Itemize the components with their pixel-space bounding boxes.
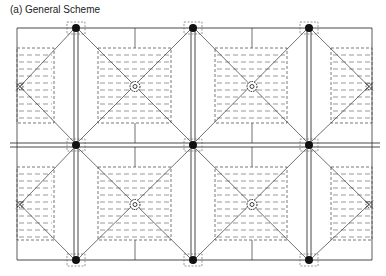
slope-diagonal	[20, 205, 73, 259]
column-node-icon	[72, 24, 80, 32]
drainage-area-edge	[331, 167, 372, 240]
slope-diagonal	[312, 149, 369, 205]
slope-diagonal	[20, 87, 73, 142]
roof-drain-icon	[247, 82, 257, 92]
slope-diagonal	[20, 30, 73, 87]
column-node-icon	[189, 24, 197, 32]
drainage-area-edge	[331, 48, 372, 123]
roof-drain-icon	[130, 200, 140, 210]
column-node-icon	[189, 256, 197, 264]
slope-diagonal	[312, 205, 369, 259]
column-node-icon	[305, 141, 313, 149]
column-node-icon	[72, 141, 80, 149]
drainage-area-edge	[17, 48, 54, 123]
slope-diagonal	[312, 87, 369, 142]
column-node-icon	[72, 256, 80, 264]
drainage-area-edge	[17, 167, 54, 240]
column-node-icon	[189, 141, 197, 149]
column-node-icon	[305, 256, 313, 264]
slope-diagonal	[20, 149, 73, 205]
drainage-scheme-diagram	[0, 0, 386, 276]
roof-drain-icon	[130, 82, 140, 92]
roof-drain-icon	[247, 200, 257, 210]
slope-diagonal	[312, 30, 369, 87]
column-node-icon	[305, 24, 313, 32]
